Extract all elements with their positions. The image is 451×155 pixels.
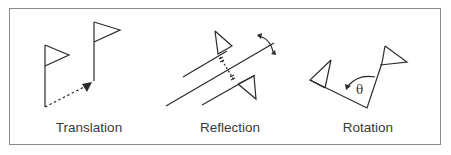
original-flag <box>215 31 232 54</box>
translated-flag <box>94 22 120 42</box>
rotation-angle-symbol: θ <box>356 83 363 97</box>
original-flag-pole <box>183 51 227 77</box>
rotated-flag-pole <box>382 46 385 63</box>
reflection-figure <box>166 31 276 106</box>
flip-arrow-icon <box>258 36 273 52</box>
translation-label: Translation <box>29 120 149 136</box>
reflection-label: Reflection <box>170 120 290 136</box>
reflected-flag <box>238 76 256 99</box>
arrow-head-icon <box>82 82 92 92</box>
translation-figure <box>45 22 120 107</box>
translation-vector <box>45 86 86 107</box>
original-flag <box>45 45 69 66</box>
rotation-label: Rotation <box>308 120 428 136</box>
rotation-arrow-icon <box>345 84 351 90</box>
rotation-figure <box>310 46 407 108</box>
